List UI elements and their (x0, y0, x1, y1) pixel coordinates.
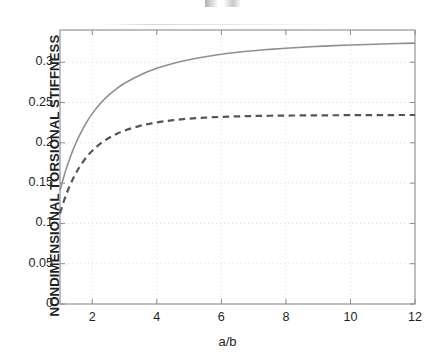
figure-container: 00.050.10.150.20.250.324681012 NONDIMENS… (0, 0, 443, 364)
gridlines (60, 30, 415, 304)
axes-frame (60, 30, 415, 304)
x-tick-label: 12 (0, 310, 443, 324)
x-axis-title: a/b (0, 334, 443, 349)
tick-marks (60, 30, 415, 304)
x-axis-title-text: a/b (206, 334, 236, 349)
y-axis-title: NONDIMENSIONAL TORSIONAL STIFFNESS (47, 26, 62, 326)
dashed-curve (60, 115, 415, 213)
data-series (60, 43, 415, 213)
